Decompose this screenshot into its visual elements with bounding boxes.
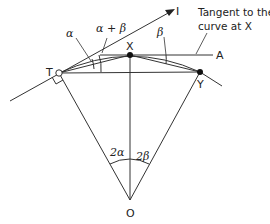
- annotation-line1: Tangent to the: [197, 6, 270, 18]
- chord-TX: [59, 55, 130, 73]
- leader-tangent-annotation: [196, 33, 207, 54]
- label-O: O: [126, 207, 135, 220]
- leader-alpha: [76, 38, 91, 61]
- label-I: I: [176, 5, 179, 18]
- label-2alpha: 2α: [109, 146, 125, 159]
- label-beta: β: [156, 26, 163, 39]
- label-2beta: 2β: [135, 150, 149, 163]
- label-Y: Y: [196, 78, 204, 91]
- leader-alpha-beta: [102, 38, 107, 53]
- label-T: T: [45, 66, 53, 79]
- point-Y: [197, 69, 203, 75]
- radius-OY: [130, 72, 200, 200]
- angle-arc-alpha-beta: [99, 55, 101, 72]
- radius-OT: [59, 73, 130, 200]
- label-alpha: α: [66, 27, 74, 40]
- point-T: [56, 70, 62, 76]
- label-X: X: [126, 40, 134, 53]
- circular-curve-diagram: T X Y O I A α α + β β 2α 2β Tangent to t…: [0, 0, 270, 224]
- label-alpha-plus-beta: α + β: [96, 22, 126, 35]
- chord-XY: [130, 55, 200, 72]
- leader-beta: [164, 37, 166, 55]
- label-A: A: [216, 49, 224, 62]
- annotation-line2: curve at X: [198, 20, 252, 32]
- arrowhead-icon: [165, 9, 175, 16]
- angle-arc-2alpha: [110, 159, 130, 164]
